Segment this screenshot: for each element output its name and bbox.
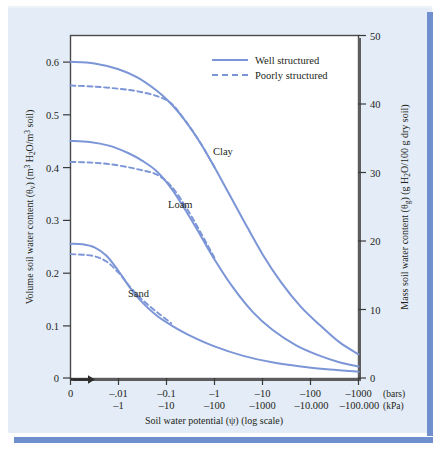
figure-root: 0.6 0.5 0.4 0.3 0.2 0.1 0 Volume soil wa…: [0, 0, 444, 453]
bottom-axis-title-main: Soil water potential (: [145, 415, 230, 427]
kpa-unit-label: (kPa): [383, 401, 404, 412]
left-axis-title-o: O/m: [24, 133, 35, 151]
bars-unit-label: (bars): [383, 389, 405, 400]
left-axis-tick-labels: 0.6 0.5 0.4 0.3 0.2 0.1 0: [46, 57, 60, 384]
bottom-axis-bars-labels: 0 –.01 –0.1 –1 –10 –100 –1000 (bars): [68, 388, 405, 400]
right-axis-title-end: O/100 g dry soil): [399, 104, 411, 173]
left-axis-title-h2o: H: [24, 155, 35, 165]
curve-label-sand: Sand: [128, 288, 150, 299]
left-tick-label: 0.6: [46, 57, 59, 68]
kpa-tick-label: –100.000: [339, 400, 379, 411]
left-tick-label: 0.4: [46, 163, 60, 174]
right-tick-label: 30: [370, 168, 381, 179]
right-tick-label: 20: [370, 236, 381, 247]
legend-label-poorly-structured: Poorly structured: [255, 70, 328, 81]
bars-tick-label: 0: [68, 388, 73, 399]
left-axis-title: Volume soil water content (θv) (m3 H2O/m…: [23, 110, 38, 305]
svg-text:Mass soil water content (θg) (: Mass soil water content (θg) (g H2O/100 …: [399, 104, 412, 309]
right-tick-label: 40: [370, 99, 381, 110]
kpa-tick-label: –10: [158, 400, 175, 411]
bars-tick-label: –100: [299, 388, 321, 399]
left-tick-label: 0.1: [46, 321, 59, 332]
bars-tick-label: –.01: [108, 388, 127, 399]
bottom-axis-kpa-labels: –1 –10 –100 –1000 –10.000 –100.000 (kPa): [112, 400, 403, 412]
left-tick-label: 0.3: [46, 215, 59, 226]
bottom-axis-title-end: ) (log scale): [235, 415, 283, 427]
right-tick-label: 10: [370, 305, 381, 316]
left-axis-title-main: Volume soil water content (: [24, 193, 36, 304]
kpa-tick-label: –10.000: [293, 400, 328, 411]
bottom-axis-title: Soil water potential (ψ) (log scale): [145, 415, 283, 427]
svg-text:Volume soil water content (θv): Volume soil water content (θv) (m3 H2O/m…: [23, 110, 38, 305]
left-tick-label: 0.5: [46, 110, 59, 121]
kpa-tick-label: –1000: [248, 400, 275, 411]
bars-tick-label: –10: [254, 388, 271, 399]
right-axis-title: Mass soil water content (θg) (g H2O/100 …: [399, 104, 412, 309]
bars-tick-label: –1: [208, 388, 220, 399]
curve-label-clay: Clay: [213, 146, 234, 157]
kpa-tick-label: –100: [203, 400, 225, 411]
left-axis-title-end: soil): [24, 110, 36, 130]
curve-label-loam: Loam: [168, 199, 193, 210]
left-axis-ticks: [63, 62, 71, 378]
left-tick-label: 0.2: [46, 268, 59, 279]
svg-text:Soil water potential (ψ) (log: Soil water potential (ψ) (log scale): [145, 415, 283, 427]
bars-tick-label: –0.1: [156, 388, 175, 399]
left-axis-title-mid: ) (m: [24, 168, 36, 185]
right-axis-title-main: Mass soil water content (: [399, 208, 411, 309]
kpa-tick-label: –1: [112, 400, 124, 411]
soil-water-retention-chart: 0.6 0.5 0.4 0.3 0.2 0.1 0 Volume soil wa…: [0, 0, 444, 453]
right-axis-tick-labels: 50 40 30 20 10 0: [370, 31, 381, 385]
right-tick-label: 0: [370, 373, 375, 384]
right-tick-label: 50: [370, 31, 381, 42]
legend-label-well-structured: Well structured: [255, 55, 320, 66]
right-axis-title-mid: ) (g H: [399, 177, 411, 201]
bars-tick-label: –1000: [344, 388, 371, 399]
left-tick-label: 0: [54, 373, 59, 384]
